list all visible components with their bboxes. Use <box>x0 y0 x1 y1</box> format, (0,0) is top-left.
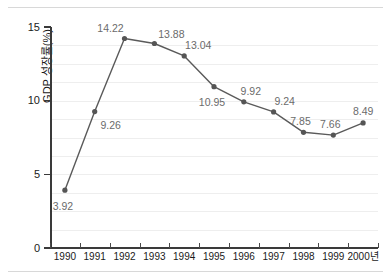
data-point-label: 10.95 <box>199 96 225 107</box>
data-point-label: 7.66 <box>320 119 340 130</box>
x-tick-label: 1996 <box>233 252 255 262</box>
data-point-marker <box>241 99 246 104</box>
top-divider-rule <box>8 7 383 8</box>
data-point-label: 13.04 <box>185 40 211 51</box>
x-tick-label: 1995 <box>203 252 225 262</box>
data-point-marker <box>301 130 306 135</box>
x-tick-label: 1997 <box>262 252 284 262</box>
data-point-marker <box>92 109 97 114</box>
y-tick-label: 15 <box>12 22 40 33</box>
data-point-label: 9.24 <box>274 96 294 107</box>
chart-figure: GDP 성장률(%) 051015 1990199119921993199419… <box>0 0 391 280</box>
x-tick-label: 1994 <box>173 252 195 262</box>
x-tick-label: 1998 <box>292 252 314 262</box>
y-tick-label: 0 <box>12 243 40 254</box>
data-point-marker <box>211 84 216 89</box>
data-point-label: 13.88 <box>158 28 184 39</box>
data-point-marker <box>271 109 276 114</box>
data-point-label: 8.49 <box>353 106 373 117</box>
data-point-label: 14.22 <box>97 22 123 33</box>
x-tick-label: 1990 <box>54 252 76 262</box>
data-point-marker <box>152 41 157 46</box>
x-tick-label: 1991 <box>84 252 106 262</box>
data-point-label: 9.92 <box>241 86 261 97</box>
data-point-label: 7.85 <box>290 116 310 127</box>
line-series-gdp-growth <box>50 27 378 248</box>
x-tick-label: 2000년 <box>347 252 378 262</box>
bottom-divider-rule <box>8 271 383 272</box>
x-tick-label: 1993 <box>143 252 165 262</box>
data-point-marker <box>182 53 187 58</box>
series-polyline <box>65 39 363 191</box>
y-tick-label: 10 <box>12 95 40 106</box>
data-point-marker <box>122 36 127 41</box>
x-tick-label: 1999 <box>322 252 344 262</box>
series-markers <box>62 36 365 193</box>
data-point-marker <box>62 188 67 193</box>
data-point-marker <box>331 133 336 138</box>
y-tick-label: 5 <box>12 169 40 180</box>
data-point-label: 9.26 <box>100 119 120 130</box>
data-point-marker <box>361 120 366 125</box>
x-tick-label: 1992 <box>113 252 135 262</box>
x-tick-mark <box>378 243 379 248</box>
data-point-label: 3.92 <box>53 201 73 212</box>
